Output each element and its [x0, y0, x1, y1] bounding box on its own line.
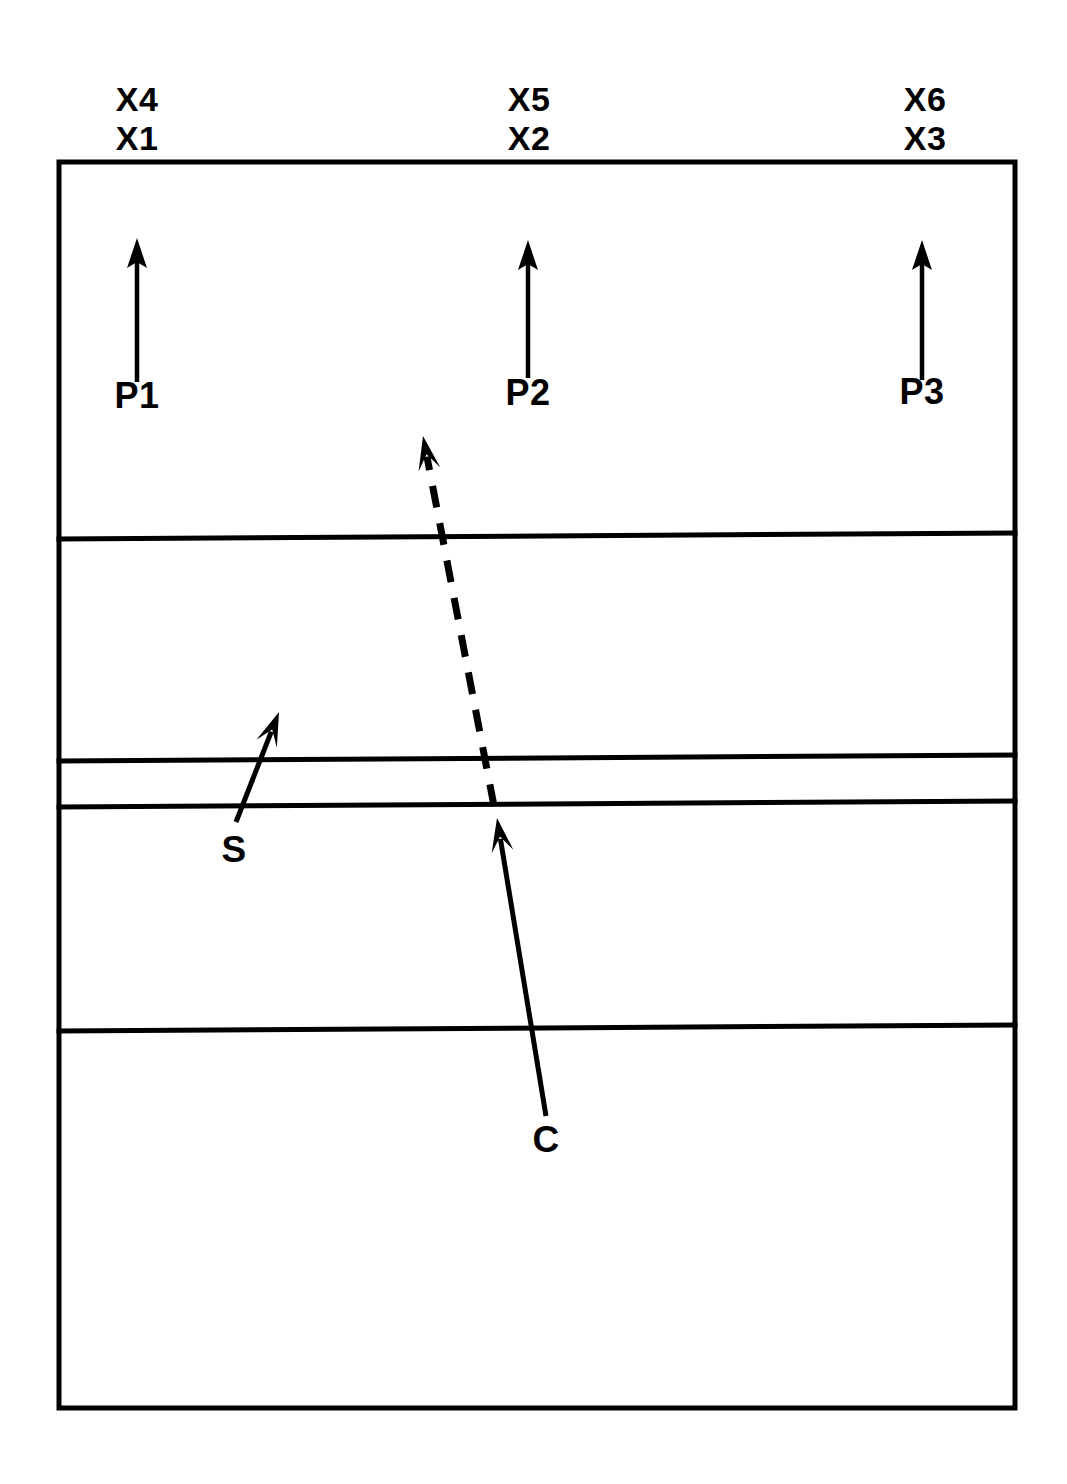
- feature-arrow-c: C: [492, 818, 560, 1160]
- s-label: S: [221, 829, 246, 870]
- stratum-line-3: [59, 801, 1015, 807]
- horizon-label-x6: X6: [904, 80, 947, 118]
- dashed-arrow-shaft: [427, 457, 494, 806]
- p2-label: P2: [505, 372, 550, 413]
- horizon-label-x3: X3: [904, 119, 947, 157]
- horizon-label-x5: X5: [508, 80, 551, 118]
- stratum-line-4: [59, 1025, 1015, 1031]
- marker-arrow-p2: P2: [505, 240, 550, 413]
- horizon-label-x4: X4: [116, 80, 159, 118]
- feature-arrow-dashed: [419, 436, 494, 806]
- horizon-label-x1: X1: [116, 119, 159, 157]
- horizon-label-group-right: X6 X3: [904, 80, 947, 157]
- s-arrow-shaft: [236, 732, 271, 822]
- section-frame: [59, 162, 1015, 1408]
- feature-arrow-s: S: [221, 712, 279, 870]
- stratum-line-1: [59, 533, 1015, 539]
- p3-label: P3: [899, 371, 944, 412]
- figure-canvas: P1 P2 P3 X4 X1 X5 X2 X6 X3: [0, 0, 1067, 1484]
- stratum-line-2: [59, 755, 1015, 761]
- horizon-label-group-center: X5 X2: [508, 80, 551, 157]
- cross-section-figure: P1 P2 P3 X4 X1 X5 X2 X6 X3: [0, 0, 1067, 1484]
- c-label: C: [532, 1119, 559, 1160]
- marker-arrow-p1: P1: [114, 238, 159, 416]
- horizon-label-x2: X2: [508, 119, 551, 157]
- horizon-label-group-left: X4 X1: [116, 80, 159, 157]
- p1-label: P1: [114, 375, 159, 416]
- c-arrow-shaft: [500, 839, 546, 1116]
- marker-arrow-p3: P3: [899, 240, 944, 412]
